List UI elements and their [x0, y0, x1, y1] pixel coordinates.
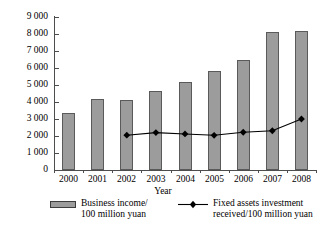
y-tick-label-5000: 5 000 [27, 80, 48, 90]
legend-label-business-income-line2: 100 million yuan [81, 209, 148, 220]
x-tick-mark-7 [258, 170, 259, 173]
x-label-2005: 2005 [200, 174, 229, 184]
y-tick-mark-0 [55, 170, 59, 171]
bar-2003 [149, 91, 162, 170]
x-tick-mark-3 [141, 170, 142, 173]
x-label-2002: 2002 [112, 174, 141, 184]
legend-entry-fixed-assets: Fixed assets investment received/100 mil… [178, 198, 313, 220]
y-tick-mark-6000 [55, 68, 59, 69]
bar-2006 [237, 60, 250, 171]
x-tick-mark-2 [112, 170, 113, 173]
bar-2008 [295, 31, 308, 170]
x-tick-mark-1 [83, 170, 84, 173]
x-label-2008: 2008 [287, 174, 316, 184]
legend-entry-business-income: Business income/ 100 million yuan [50, 198, 148, 220]
y-tick-mark-9000 [55, 17, 59, 18]
chart-legend: Business income/ 100 million yuan Fixed … [0, 198, 326, 232]
y-tick-mark-5000 [55, 85, 59, 86]
x-tick-mark-0 [54, 170, 55, 173]
x-tick-mark-6 [229, 170, 230, 173]
legend-label-business-income-line1: Business income/ [81, 198, 148, 208]
y-tick-label-6000: 6 000 [27, 63, 48, 73]
y-tick-mark-1000 [55, 153, 59, 154]
y-tick-mark-3000 [55, 119, 59, 120]
y-tick-label-7000: 7 000 [27, 46, 48, 56]
bar-2000 [62, 113, 75, 170]
y-tick-mark-2000 [55, 136, 59, 137]
x-label-2004: 2004 [171, 174, 200, 184]
legend-label-fixed-assets-line1: Fixed assets investment [213, 198, 303, 208]
legend-line-diamond-icon [178, 200, 208, 209]
x-label-2006: 2006 [229, 174, 258, 184]
y-tick-label-0: 0 [43, 165, 48, 175]
x-label-2003: 2003 [141, 174, 171, 184]
y-tick-mark-4000 [55, 102, 59, 103]
y-tick-label-1000: 1 000 [27, 148, 48, 158]
y-axis-line [54, 16, 55, 171]
x-label-2007: 2007 [258, 174, 287, 184]
legend-label-business-income: Business income/ 100 million yuan [81, 198, 148, 220]
x-tick-mark-4 [171, 170, 172, 173]
bar-2004 [179, 82, 192, 170]
y-tick-label-2000: 2 000 [27, 131, 48, 141]
bar-2005 [208, 71, 221, 170]
y-tick-label-3000: 3 000 [27, 114, 48, 124]
x-label-2001: 2001 [83, 174, 112, 184]
y-tick-label-4000: 4 000 [27, 97, 48, 107]
legend-label-fixed-assets-line2: received/100 million yuan [213, 209, 313, 220]
x-axis-title: Year [0, 186, 326, 196]
legend-bar-swatch-icon [50, 201, 76, 208]
x-tick-mark-8 [287, 170, 288, 173]
x-label-2000: 2000 [54, 174, 83, 184]
bar-2002 [120, 100, 133, 170]
y-tick-label-9000: 9 000 [27, 12, 48, 22]
y-tick-mark-8000 [55, 34, 59, 35]
y-tick-mark-7000 [55, 51, 59, 52]
x-axis-line [54, 170, 317, 171]
bar-2007 [266, 32, 279, 170]
legend-label-fixed-assets: Fixed assets investment received/100 mil… [213, 198, 313, 220]
x-tick-mark-5 [200, 170, 201, 173]
chart-figure: 9 000 8 000 7 000 6 000 5 000 4 000 3 00… [0, 0, 326, 238]
x-tick-mark-9 [316, 170, 317, 173]
bar-2001 [91, 99, 104, 170]
y-tick-label-8000: 8 000 [27, 29, 48, 39]
